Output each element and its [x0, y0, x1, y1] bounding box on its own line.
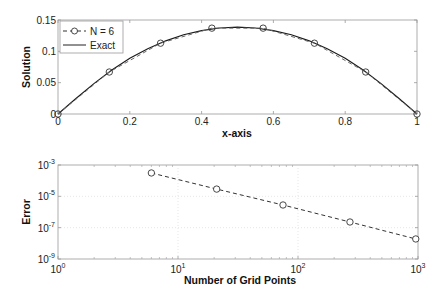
tick-label: 10-5	[38, 189, 55, 202]
error-plot: 10010110210310-910-710-510-3 Number of G…	[20, 158, 426, 286]
x-tick-label: 0.6	[266, 116, 280, 127]
y-tick-label: 0.15	[37, 15, 57, 26]
data-point-marker	[347, 219, 353, 225]
legend-label-numeric: N = 6	[90, 26, 115, 37]
error-plot-frame	[58, 165, 418, 259]
solution-plot: 00.20.40.60.8100.050.10.15 N = 6 Exact x…	[20, 15, 420, 140]
x-tick-label: 0.8	[338, 116, 352, 127]
data-point-marker	[148, 170, 154, 176]
data-point-marker	[413, 236, 419, 242]
x-axis-label: x-axis	[222, 127, 252, 139]
x-tick-label: 1	[414, 116, 420, 127]
y-tick-label: 0	[50, 109, 56, 120]
tick-label: 10-7	[38, 221, 55, 234]
data-point-marker	[213, 186, 219, 192]
y-tick-label: 0.1	[42, 46, 56, 57]
y-axis-label-solution: Solution	[20, 46, 32, 88]
tick-label: 103	[410, 262, 425, 275]
tick-label: 10-3	[38, 158, 55, 171]
x-tick-label: 0	[55, 116, 61, 127]
legend-circle-marker-icon	[72, 28, 78, 34]
grid-points-axis-label: Number of Grid Points	[184, 274, 296, 286]
tick-label: 100	[50, 262, 65, 275]
y-axis-label-error: Error	[20, 199, 32, 225]
data-point-marker	[280, 202, 286, 208]
x-tick-label: 0.2	[123, 116, 137, 127]
x-tick-label: 0.4	[195, 116, 209, 127]
y-tick-label: 0.05	[37, 77, 57, 88]
legend-label-exact: Exact	[90, 40, 115, 51]
figure: 00.20.40.60.8100.050.10.15 N = 6 Exact x…	[0, 0, 442, 301]
legend: N = 6 Exact	[60, 21, 123, 53]
